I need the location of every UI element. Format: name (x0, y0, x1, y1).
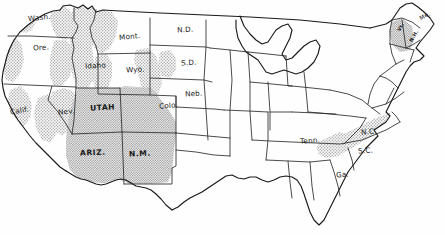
shading-wyoming-west (92, 54, 112, 92)
highland-shading-layer (3, 5, 414, 184)
shading-montana-rockies (92, 10, 118, 54)
us-highland-map: Wash. Ore. Calif. Nev. Idaho Mont. Wyo. … (0, 0, 445, 235)
shading-blackhills (158, 50, 176, 78)
shading-calif-coast (8, 86, 32, 126)
map-canvas (0, 0, 445, 235)
